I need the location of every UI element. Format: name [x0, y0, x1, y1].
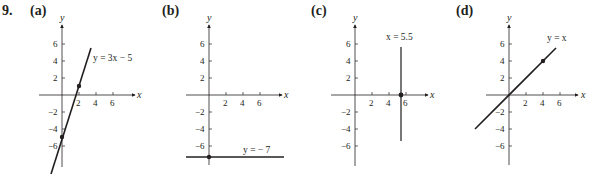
tick-x-6: 6: [257, 98, 262, 108]
graph-c: 2 4 6 6 4 2 −2 −4 −6 x y x = 5.5: [331, 12, 435, 166]
point-0-neg5: [60, 135, 64, 139]
tick-y-neg4: −4: [195, 124, 205, 134]
tick-y-neg6: −6: [495, 141, 505, 151]
tick-x-4: 4: [540, 98, 545, 108]
graph-d: 2 4 6 6 4 2 −2 −4 −6 x y y = x: [475, 12, 586, 165]
equation-label-c: x = 5.5: [386, 32, 413, 42]
tick-y-neg2: −2: [48, 107, 58, 117]
tick-x-4: 4: [386, 98, 391, 108]
tick-y-4: 4: [53, 56, 58, 66]
tick-y-6: 6: [200, 39, 205, 49]
x-axis-label: x: [283, 89, 289, 100]
tick-y-2: 2: [500, 73, 505, 83]
tick-y-neg6: −6: [195, 141, 205, 151]
equation-label-a: y = 3x − 5: [93, 53, 132, 63]
tick-y-neg6: −6: [48, 141, 58, 151]
tick-y-neg2: −2: [341, 107, 351, 117]
tick-y-2: 2: [200, 73, 205, 83]
point-4-4: [541, 59, 545, 63]
y-axis-label: y: [352, 12, 358, 23]
x-axis-label: x: [580, 89, 586, 100]
tick-x-6: 6: [557, 98, 562, 108]
tick-x-6: 6: [403, 98, 408, 108]
tick-x-6: 6: [110, 98, 115, 108]
graphs-canvas: 2 4 6 6 4 2 −2 −4 −6 x y y = 3x − 5 2 4 …: [0, 0, 591, 176]
tick-y-6: 6: [53, 39, 58, 49]
point-5-5-0: [399, 93, 404, 98]
y-axis-label: y: [206, 12, 212, 23]
tick-x-2: 2: [369, 98, 374, 108]
tick-y-6: 6: [500, 39, 505, 49]
tick-y-neg4: −4: [341, 124, 351, 134]
tick-y-neg2: −2: [195, 107, 205, 117]
tick-x-4: 4: [93, 98, 98, 108]
tick-y-6: 6: [346, 39, 351, 49]
graph-a: 2 4 6 6 4 2 −2 −4 −6 x y y = 3x − 5: [39, 12, 142, 174]
graph-b: 2 4 6 6 4 2 −2 −4 −6 x y y = − 7: [186, 12, 289, 165]
tick-x-2: 2: [76, 98, 81, 108]
tick-x-2: 2: [523, 98, 528, 108]
tick-y-4: 4: [200, 56, 205, 66]
equation-label-d: y = x: [547, 33, 567, 43]
tick-x-4: 4: [240, 98, 245, 108]
point-0-neg7: [207, 155, 211, 159]
tick-x-2: 2: [223, 98, 228, 108]
y-axis-label: y: [506, 12, 512, 23]
tick-y-4: 4: [346, 56, 351, 66]
tick-y-neg4: −4: [48, 124, 58, 134]
tick-y-4: 4: [500, 56, 505, 66]
tick-y-2: 2: [53, 73, 58, 83]
x-axis-label: x: [136, 89, 142, 100]
x-axis-label: x: [429, 89, 435, 100]
equation-label-b: y = − 7: [243, 145, 271, 155]
y-axis-label: y: [59, 12, 65, 23]
tick-y-2: 2: [346, 73, 351, 83]
tick-y-neg4: −4: [495, 124, 505, 134]
tick-y-neg6: −6: [341, 141, 351, 151]
point-2-1: [77, 84, 81, 88]
